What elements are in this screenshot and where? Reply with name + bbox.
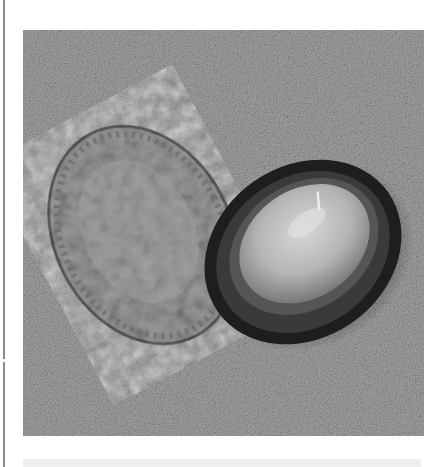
page-rule-gap: [2, 359, 6, 362]
page-rule-line: [3, 0, 5, 467]
next-content-edge: [23, 459, 421, 467]
figure-photo: [23, 30, 424, 436]
shells-photo: [23, 30, 424, 436]
